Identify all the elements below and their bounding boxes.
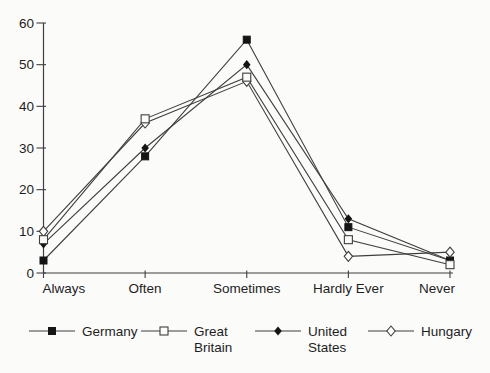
legend-label: Hungary: [421, 324, 472, 339]
legend-label: Germany: [82, 324, 138, 339]
legend-label: Great: [194, 324, 228, 339]
legend-marker-united-states: [274, 326, 282, 335]
marker-hungary: [344, 251, 352, 261]
y-tick-label: 10: [19, 224, 34, 239]
y-tick-label: 40: [19, 99, 34, 114]
series-line-hungary: [44, 81, 451, 256]
marker-germany: [345, 224, 352, 231]
y-tick-label: 60: [19, 16, 34, 31]
x-category-label: Never: [419, 281, 456, 296]
marker-germany: [243, 36, 250, 43]
legend-marker-germany: [49, 328, 56, 335]
y-tick-label: 30: [19, 141, 34, 156]
marker-great-britain: [40, 236, 48, 244]
marker-germany: [40, 257, 47, 264]
x-category-label: Always: [43, 281, 86, 296]
legend-label: United: [308, 324, 347, 339]
marker-great-britain: [141, 115, 149, 123]
marker-germany: [142, 153, 149, 160]
rushed-frequency-line-chart: 0102030405060AlwaysOftenSometimesHardly …: [0, 0, 490, 373]
legend-marker-great-britain: [160, 327, 168, 335]
legend-label-line2: Britain: [194, 340, 232, 355]
series-line-great-britain: [44, 77, 451, 265]
series-line-united-states: [44, 65, 451, 261]
y-tick-label: 20: [19, 182, 34, 197]
x-category-label: Hardly Ever: [313, 281, 384, 296]
scanned-line-chart-figure: 0102030405060AlwaysOftenSometimesHardly …: [0, 0, 490, 373]
marker-great-britain: [243, 73, 251, 81]
x-category-label: Often: [129, 281, 162, 296]
legend-marker-hungary: [387, 326, 395, 336]
y-tick-label: 0: [26, 266, 34, 281]
marker-great-britain: [446, 261, 454, 269]
legend-label-line2: States: [308, 340, 347, 355]
marker-hungary: [446, 247, 454, 257]
x-category-label: Sometimes: [213, 281, 281, 296]
marker-great-britain: [344, 236, 352, 244]
y-tick-label: 50: [19, 57, 34, 72]
